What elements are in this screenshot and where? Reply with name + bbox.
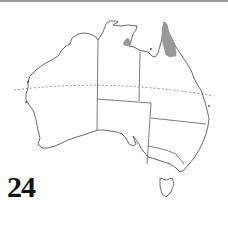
distribution-cape-york bbox=[162, 22, 176, 57]
australia-outline bbox=[26, 21, 209, 172]
figure-label: 24 bbox=[7, 172, 35, 202]
tasmania-outline bbox=[160, 178, 174, 197]
tropic-of-capricorn-line bbox=[14, 85, 214, 96]
distribution-gulf-nt bbox=[123, 38, 131, 46]
state-borders bbox=[97, 40, 206, 164]
